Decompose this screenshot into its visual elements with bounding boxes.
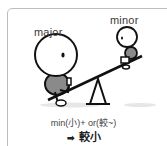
- minor-character-icon: [117, 27, 137, 69]
- major-label: major: [34, 26, 63, 38]
- ground-shadow: [124, 103, 156, 107]
- fulcrum-icon: [86, 79, 110, 104]
- right-arrow-icon: ➡: [67, 133, 75, 143]
- meaning-text: 較小: [79, 131, 101, 143]
- minor-label: minor: [110, 14, 139, 26]
- meaning-result: ➡較小: [0, 128, 167, 144]
